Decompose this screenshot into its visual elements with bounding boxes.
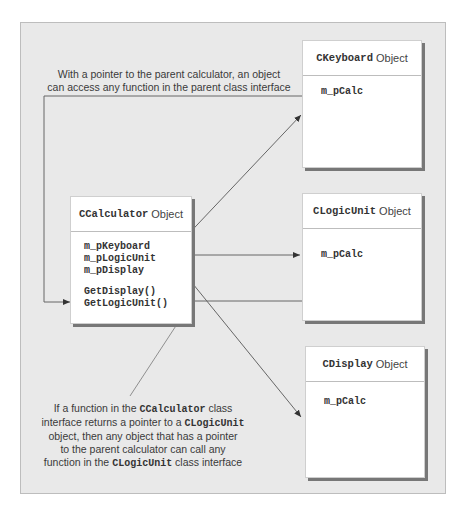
cdisplay-object-box: CDisplay Object m_pCalc — [305, 346, 425, 478]
annotation-leader — [130, 312, 185, 396]
keyboard-pointer-arrow — [180, 115, 301, 243]
top-annotation: With a pointer to the parent calculator,… — [40, 68, 298, 94]
ccalculator-header: CCalculator Object — [71, 197, 191, 232]
ckeyboard-header: CKeyboard Object — [303, 41, 421, 76]
cdisplay-m-pcalc: m_pCalc — [324, 396, 424, 408]
ccalculator-object-box: CCalculator Object m_pKeyboard m_pLogicU… — [70, 196, 192, 324]
bottom-annotation: If a function in the CCalculator class i… — [28, 402, 258, 470]
ckeyboard-object-box: CKeyboard Object m_pCalc — [302, 40, 422, 168]
member-m-pdisplay: m_pDisplay — [84, 265, 191, 277]
clogicunit-header: CLogicUnit Object — [303, 194, 421, 229]
clogicunit-m-pcalc: m_pCalc — [321, 249, 421, 261]
function-getdisplay: GetDisplay() — [84, 286, 191, 298]
display-pointer-arrow — [180, 268, 301, 417]
member-m-pkeyboard: m_pKeyboard — [84, 241, 191, 253]
member-m-plogicunit: m_pLogicUnit — [84, 253, 191, 265]
clogicunit-object-box: CLogicUnit Object m_pCalc — [302, 193, 422, 321]
ckeyboard-m-pcalc: m_pCalc — [321, 86, 421, 98]
function-getlogicunit: GetLogicUnit() — [84, 298, 191, 310]
cdisplay-header: CDisplay Object — [306, 347, 424, 382]
